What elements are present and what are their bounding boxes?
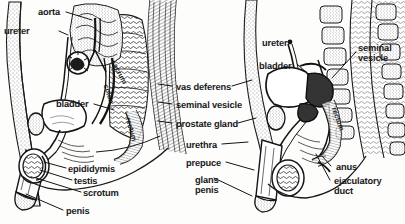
label-vas-deferens: vas deferens [176, 83, 231, 93]
label-testis: testis [74, 177, 97, 187]
label-glans-penis-line2: penis [195, 186, 219, 196]
label-bladder-right: bladder [259, 62, 292, 72]
label-bladder: bladder [56, 100, 89, 110]
label-aorta: aorta [38, 8, 60, 18]
label-seminal-vesicle-right-line2: vesicle [358, 54, 388, 64]
label-urethra: urethra [186, 141, 217, 151]
label-penis: penis [66, 207, 90, 217]
anatomy-figure: aorta ureter bladder epididymis testis s… [0, 0, 405, 224]
label-epididymis: epididymis [68, 165, 115, 175]
label-anus: anus [336, 163, 357, 173]
label-ureter: ureter [4, 27, 29, 37]
label-seminal-vesicle: seminal vesicle [176, 101, 242, 111]
label-prepuce: prepuce [186, 159, 221, 169]
label-ureter-right: ureter [262, 39, 287, 49]
label-ejaculatory-duct-line2: duct [334, 187, 353, 197]
label-scrotum: scrotum [83, 189, 119, 199]
label-prostate-gland: prostate gland [176, 120, 238, 130]
